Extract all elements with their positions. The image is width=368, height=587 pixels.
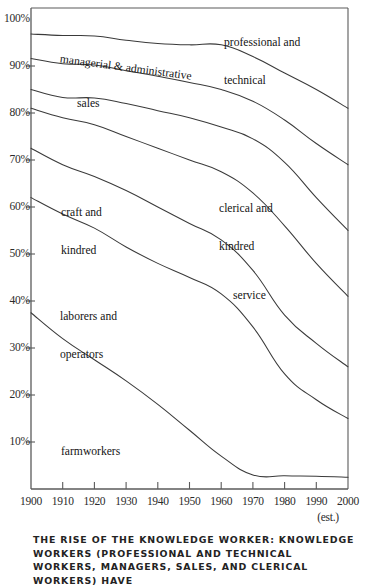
label-line-1: managerial & xyxy=(59,52,124,73)
label-line-2: kindred xyxy=(61,245,102,258)
y-axis-tick-label: 60% xyxy=(0,201,30,212)
y-axis-tick-label: 50% xyxy=(0,248,30,259)
series-label-sales: sales xyxy=(77,73,100,136)
label-line-1: farmworkers xyxy=(61,446,120,459)
y-axis-tick-label: 40% xyxy=(0,295,30,306)
x-axis-tick-label: 2000 xyxy=(328,495,368,507)
series-label-clerical-and-kindred: clerical and kindred xyxy=(219,178,273,279)
y-axis-tick-label: 80% xyxy=(0,107,30,118)
y-axis-tick-label: 20% xyxy=(0,389,30,400)
figure-caption: The Rise of the Knowledge worker: Knowle… xyxy=(33,533,355,587)
y-axis-tick-label: 70% xyxy=(0,154,30,165)
series-label-professional-and-technical: professional and technical xyxy=(224,12,300,113)
series-label-laborers-and-operators: laborers and operators xyxy=(60,286,117,387)
label-line-1: clerical and xyxy=(219,203,273,216)
label-line-1: service xyxy=(233,290,266,303)
y-axis-tick-label: 90% xyxy=(0,60,30,71)
label-line-2: operators xyxy=(60,349,117,362)
series-label-craft-and-kindred: craft and kindred xyxy=(61,182,102,283)
y-axis-tick-label: 10% xyxy=(0,436,30,447)
label-line-2: technical xyxy=(224,75,300,88)
x-axis-estimate-note: (est.) xyxy=(308,511,348,523)
series-label-service: service xyxy=(233,265,266,328)
label-line-2: kindred xyxy=(219,241,273,254)
label-line-1: sales xyxy=(77,98,100,111)
series-label-farmworkers: farmworkers xyxy=(61,421,120,484)
label-line-1: professional and xyxy=(224,37,300,50)
label-line-2: administrative xyxy=(125,61,192,83)
label-line-1: laborers and xyxy=(60,311,117,324)
y-axis-tick-label: 30% xyxy=(0,342,30,353)
y-axis-tick-label: 100% xyxy=(0,13,30,24)
label-line-1: craft and xyxy=(61,207,102,220)
